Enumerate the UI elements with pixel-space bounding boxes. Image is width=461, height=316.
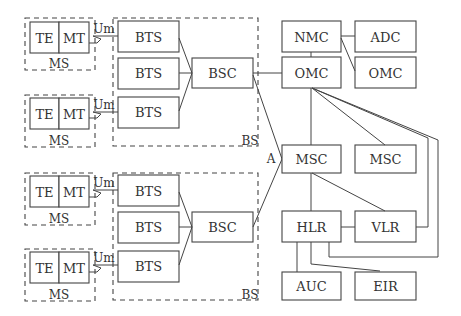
eir-label: EIR bbox=[373, 279, 399, 294]
radio-link-icon bbox=[89, 190, 118, 197]
mt-label: MT bbox=[63, 107, 85, 122]
mt-label: MT bbox=[63, 31, 85, 46]
nmc-label: NMC bbox=[294, 30, 329, 45]
te-label: TE bbox=[35, 261, 53, 276]
bts-label: BTS bbox=[135, 184, 162, 199]
bs-label: BS bbox=[241, 134, 258, 148]
vlr-label: VLR bbox=[371, 220, 401, 235]
um-label: Um bbox=[93, 176, 115, 190]
bts-label: BTS bbox=[135, 259, 162, 274]
radio-link-icon bbox=[89, 36, 118, 43]
ms-group-2: TE MT MS Um bbox=[25, 95, 118, 148]
ms-group-1: TE MT MS Um bbox=[25, 18, 118, 71]
mt-label: MT bbox=[63, 261, 85, 276]
auc-label: AUC bbox=[295, 279, 326, 294]
bs-label: BS bbox=[241, 288, 258, 302]
msc-left-label: MSC bbox=[295, 152, 327, 167]
core-network: NMC ADC OMC OMC MSC MSC HLR VLR AUC EIR bbox=[282, 21, 416, 300]
ms-label: MS bbox=[49, 288, 70, 302]
radio-link-icon bbox=[89, 112, 118, 118]
adc-label: ADC bbox=[370, 30, 401, 45]
um-label: Um bbox=[93, 98, 115, 112]
omc-right-label: OMC bbox=[369, 66, 403, 81]
ms-group-3: TE MT MS Um bbox=[25, 173, 118, 226]
te-label: TE bbox=[35, 31, 53, 46]
bs-group-2: BTS BTS BTS BSC BS bbox=[113, 173, 259, 302]
bsc-label: BSC bbox=[208, 66, 236, 81]
ms-label: MS bbox=[49, 57, 70, 71]
msc-right-label: MSC bbox=[369, 152, 401, 167]
bts-label: BTS bbox=[135, 220, 162, 235]
te-label: TE bbox=[35, 185, 53, 200]
ms-label: MS bbox=[49, 134, 70, 148]
omc-left-label: OMC bbox=[295, 66, 329, 81]
ms-label: MS bbox=[49, 212, 70, 226]
hlr-label: HLR bbox=[297, 220, 328, 235]
radio-link-icon bbox=[89, 265, 118, 272]
bts-label: BTS bbox=[135, 105, 162, 120]
bsc-label: BSC bbox=[208, 220, 236, 235]
bts-label: BTS bbox=[135, 66, 162, 81]
bts-label: BTS bbox=[135, 30, 162, 45]
gsm-architecture-diagram: TE MT MS Um TE MT MS Um BTS BTS BTS BSC … bbox=[0, 0, 461, 316]
bs-group-1: BTS BTS BTS BSC BS bbox=[113, 18, 259, 148]
um-label: Um bbox=[93, 251, 115, 265]
mt-label: MT bbox=[63, 185, 85, 200]
um-label: Um bbox=[93, 22, 115, 36]
ms-group-4: TE MT MS Um bbox=[25, 249, 118, 302]
a-interface-label: A bbox=[266, 152, 276, 166]
te-label: TE bbox=[35, 107, 53, 122]
